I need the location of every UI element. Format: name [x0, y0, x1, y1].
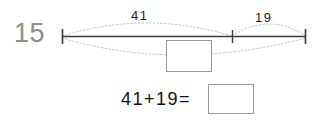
upper-right-arc-dotted [232, 24, 306, 36]
worksheet-canvas: 15 41 19 41+19= [0, 0, 330, 123]
upper-left-arc-dotted [62, 23, 232, 36]
arc-label-41: 41 [131, 9, 148, 23]
equation-answer-box[interactable] [208, 84, 254, 114]
equation-text: 41+19= [121, 86, 191, 112]
number-line-answer-box[interactable] [166, 40, 212, 72]
problem-number: 15 [14, 18, 45, 48]
arc-label-19: 19 [255, 11, 272, 25]
